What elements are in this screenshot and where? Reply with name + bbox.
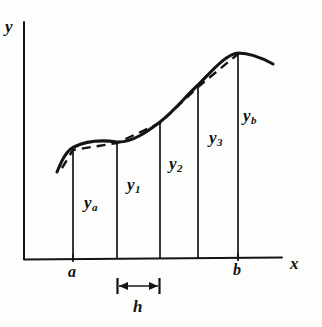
- function-curve-solid: [57, 53, 273, 172]
- y-axis-label: y: [5, 18, 13, 35]
- h-bracket-left-arrowhead: [119, 282, 128, 290]
- x-axis-label: x: [290, 255, 299, 272]
- ordinate-label-y-b: yb: [243, 107, 256, 126]
- h-label: h: [133, 298, 142, 315]
- ordinate-label-y-a: ya: [84, 194, 97, 213]
- ordinate-label-y-2: y2: [169, 155, 182, 174]
- h-bracket: [118, 278, 160, 294]
- ordinate-label-y-1: y1: [127, 176, 140, 195]
- ordinate-label-y-1-base: y: [127, 175, 135, 194]
- ordinate-label-y-a-subscript: a: [92, 201, 98, 213]
- ordinate-label-y-3: y3: [209, 129, 222, 148]
- ordinate-label-y-1-subscript: 1: [135, 183, 141, 195]
- ordinate-label-y-a-base: y: [84, 193, 92, 212]
- figure-canvas: [0, 0, 322, 327]
- trapezoidal-rule-figure: y x a b h ya y1 y2 y3 yb: [0, 0, 322, 327]
- ordinate-label-y-b-base: y: [243, 106, 251, 125]
- ordinate-label-y-b-subscript: b: [251, 114, 257, 126]
- ordinate-label-y-2-base: y: [169, 154, 177, 173]
- ordinate-label-y-3-base: y: [209, 128, 217, 147]
- h-bracket-right-arrowhead: [149, 282, 158, 290]
- x-axis-line: [24, 258, 282, 260]
- ordinate-label-y-2-subscript: 2: [177, 162, 183, 174]
- tick-label-b: b: [233, 262, 241, 278]
- tick-label-a: a: [68, 264, 76, 280]
- ordinate-label-y-3-subscript: 3: [217, 136, 223, 148]
